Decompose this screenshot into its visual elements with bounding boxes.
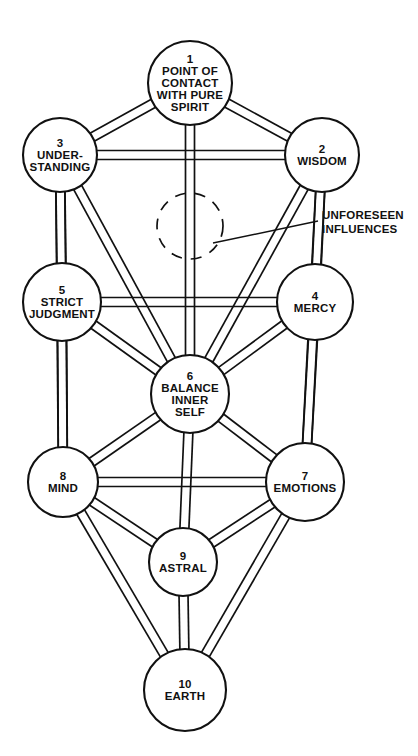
tree-of-life-svg: 1POINT OFCONTACTWITH PURESPIRIT2WISDOM3U… [0,0,418,756]
path-segment [77,514,161,657]
node-1[interactable]: 1POINT OFCONTACTWITH PURESPIRIT [148,41,232,125]
nodes-layer: 1POINT OFCONTACTWITH PURESPIRIT2WISDOM3U… [23,41,359,731]
path-4-5 [101,298,278,307]
node-label-1: SPIRIT [171,101,209,113]
node-8[interactable]: 8MIND [28,447,98,517]
path-segment [229,99,292,133]
path-segment [201,513,281,652]
path-4-7 [303,339,318,443]
node-label-1: CONTACT [162,77,219,89]
unforeseen-influences-circle [157,193,223,259]
path-segment [58,341,59,448]
path-segment [219,321,282,368]
node-label-6: SELF [175,406,205,418]
node-number-2: 2 [319,143,326,155]
node-6[interactable]: 6BALANCEINNERSELF [151,355,229,433]
node-number-10: 10 [178,678,191,690]
node-2[interactable]: 2WISDOM [285,118,359,192]
node-number-8: 8 [60,470,67,482]
path-segment [179,596,180,650]
path-segment [225,107,288,141]
path-8-10 [77,510,169,657]
node-5[interactable]: 5STRICTJUDGMENT [23,263,101,341]
node-number-9: 9 [180,550,187,562]
node-label-1: WITH PURE [157,89,223,101]
path-segment [303,339,309,443]
path-segment [89,412,156,458]
path-6-9 [180,433,193,529]
path-2-3 [97,151,286,160]
path-6-8 [89,412,161,466]
node-10[interactable]: 10EARTH [144,649,226,731]
path-segment [91,328,156,375]
node-label-4: MERCY [294,302,337,314]
path-segment [312,340,318,444]
path-segment [67,341,68,448]
path-9-10 [179,596,189,650]
node-4[interactable]: 4MERCY [277,264,353,340]
node-label-5: JUDGMENT [29,308,95,320]
path-segment [209,499,270,539]
path-segment [89,505,152,547]
path-segment [94,420,161,466]
node-label-6: INNER [172,394,209,406]
path-segment [189,433,193,529]
path-segment [96,321,161,368]
path-5-6 [91,321,161,375]
node-label-3: UNDER- [37,149,83,161]
node-3[interactable]: 3UNDER-STANDING [23,118,97,192]
node-label-9: ASTRAL [159,562,207,574]
path-segment [90,99,151,133]
node-label-5: STRICT [41,296,84,308]
path-1-2 [225,99,292,141]
node-label-1: POINT OF [162,65,218,77]
node-label-2: WISDOM [297,155,347,167]
node-9[interactable]: 9ASTRAL [149,528,217,596]
unforeseen-influences-label: INFLUENCES [322,223,398,235]
node-number-7: 7 [302,470,309,482]
node-label-6: BALANCE [161,382,219,394]
path-segment [209,518,289,657]
annotation-layer: UNFORESEENINFLUENCES [213,209,404,243]
path-7-9 [209,499,275,547]
node-label-10: EARTH [165,690,206,702]
node-number-5: 5 [59,284,66,296]
path-8-9 [89,498,157,548]
node-label-7: EMOTIONS [274,482,337,494]
node-number-4: 4 [312,290,319,302]
unforeseen-influences-label: UNFORESEEN [322,209,404,221]
unforeseen-influences-leader-line [213,221,318,243]
path-segment [180,433,184,529]
path-segment [224,328,287,375]
path-4-6 [219,321,288,375]
node-label-8: MIND [48,482,78,494]
node-number-6: 6 [187,370,194,382]
path-6-7 [218,414,277,462]
node-label-3: STANDING [30,161,91,173]
unforeseen-influences-marker [157,193,223,259]
path-1-3 [90,99,156,141]
path-segment [205,185,301,358]
node-number-3: 3 [57,137,64,149]
path-segment [188,596,189,650]
path-segment [94,107,155,141]
node-7[interactable]: 7EMOTIONS [266,443,344,521]
path-segment [224,414,277,455]
path-segment [218,421,271,462]
tree-of-life-diagram: 1POINT OFCONTACTWITH PURESPIRIT2WISDOM3U… [0,0,418,756]
node-number-1: 1 [187,53,194,65]
path-segment [94,498,157,540]
